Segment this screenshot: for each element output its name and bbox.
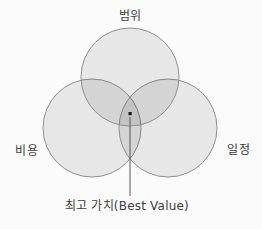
label-scope: 범위	[119, 9, 142, 23]
center-dot	[129, 112, 132, 115]
label-best-value: 최고 가치(Best Value)	[65, 199, 189, 213]
label-cost: 비용	[15, 144, 38, 158]
venn-diagram: 범위 비용 일정 최고 가치(Best Value)	[0, 0, 262, 229]
label-schedule: 일정	[227, 143, 250, 157]
circle-scope	[81, 28, 179, 126]
venn-diagram-canvas	[0, 0, 262, 229]
